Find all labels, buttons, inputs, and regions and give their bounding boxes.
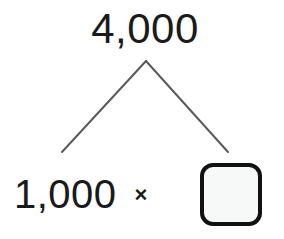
- part-value-left: 1,000: [14, 174, 117, 214]
- right-branch-line: [146, 61, 228, 152]
- answer-input-box[interactable]: [200, 163, 262, 226]
- left-branch-line: [62, 61, 146, 152]
- number-bond-diagram: 4,000 1,000 ×: [0, 0, 284, 239]
- multiplication-icon: ×: [130, 184, 152, 206]
